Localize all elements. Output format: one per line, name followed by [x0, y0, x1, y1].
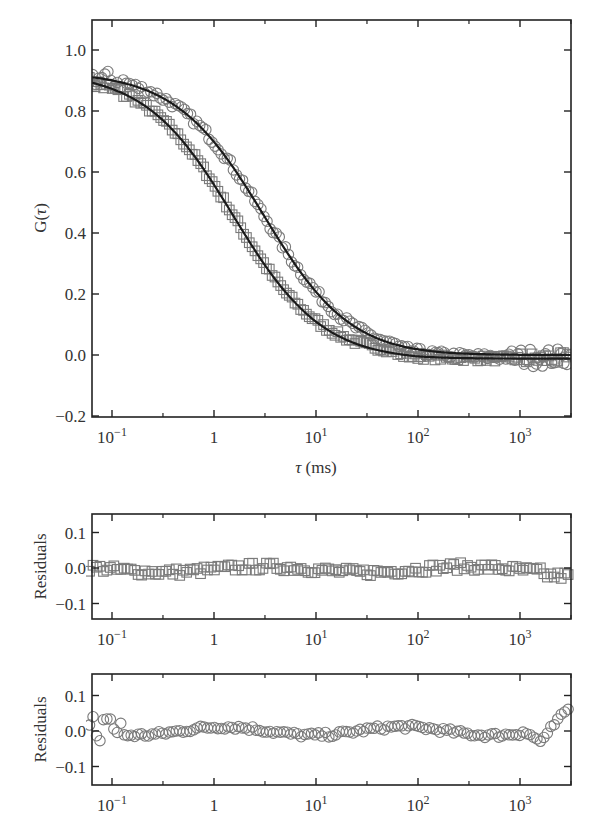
y-tick-label: 0.2 — [65, 285, 86, 304]
y-tick-label: 0.6 — [65, 163, 86, 182]
y-tick-label: 0.1 — [65, 524, 86, 543]
y-tick-label: 0.4 — [65, 224, 87, 243]
y-tick-label: 0.8 — [65, 102, 86, 121]
x-tick-label: 10−1 — [97, 793, 127, 815]
y-axis-label: G(τ) — [31, 203, 50, 233]
x-tick-label: 10−1 — [97, 627, 127, 649]
x-tick-label: 103 — [509, 627, 532, 649]
x-tick-label: 102 — [407, 793, 430, 815]
x-tick-label: 1 — [210, 428, 219, 447]
y-tick-label: 0.0 — [65, 559, 86, 578]
x-tick-label: 103 — [509, 425, 532, 447]
x-tick-label: 101 — [305, 793, 328, 815]
residuals-plot-circles: 10−111011021030.10.0−0.1Residuals — [31, 674, 573, 815]
y-tick-label: 1.0 — [65, 41, 86, 60]
y-tick-label: 0.0 — [65, 346, 86, 365]
x-tick-label: 101 — [305, 627, 328, 649]
x-tick-label: 10−1 — [97, 425, 127, 447]
y-tick-label: −0.1 — [55, 595, 86, 614]
x-axis-label: τ (ms) — [295, 458, 337, 477]
x-tick-label: 102 — [407, 627, 430, 649]
x-tick-label: 101 — [305, 425, 328, 447]
y-tick-label: −0.1 — [55, 758, 86, 777]
x-tick-label: 103 — [509, 793, 532, 815]
residuals-plot-squares: 10−111011021030.10.0−0.1Residuals — [31, 514, 573, 649]
x-tick-label: 102 — [407, 425, 430, 447]
residuals-axis-label: Residuals — [31, 533, 50, 599]
y-tick-label: −0.2 — [55, 407, 86, 426]
fcs-figure: 10−111011021031.00.80.60.40.20.0−0.2G(τ)… — [0, 0, 598, 837]
residuals-axis-label: Residuals — [31, 696, 50, 762]
correlation-plot: 10−111011021031.00.80.60.40.20.0−0.2G(τ)… — [31, 20, 575, 477]
y-tick-label: 0.1 — [65, 687, 86, 706]
x-tick-label: 1 — [210, 630, 219, 649]
x-tick-label: 1 — [210, 796, 219, 815]
y-tick-label: 0.0 — [65, 722, 86, 741]
